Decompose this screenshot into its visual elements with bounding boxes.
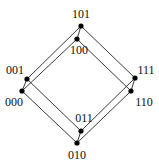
node-label-110: 110 <box>135 95 153 109</box>
node-000 <box>19 88 24 93</box>
node-010 <box>74 140 79 145</box>
node-011 <box>78 128 83 133</box>
edge-001-011 <box>27 79 81 131</box>
node-label-001: 001 <box>6 63 24 77</box>
node-label-011: 011 <box>75 111 93 125</box>
node-label-111: 111 <box>137 63 154 77</box>
node-101 <box>78 23 83 28</box>
node-label-010: 010 <box>68 148 86 162</box>
node-110 <box>128 88 133 93</box>
node-label-100: 100 <box>70 43 88 57</box>
edge-101-111 <box>81 26 135 78</box>
node-label-101: 101 <box>72 7 90 21</box>
node-100 <box>74 36 79 41</box>
nodes <box>19 23 137 145</box>
node-label-000: 000 <box>5 95 23 109</box>
node-001 <box>24 76 29 81</box>
edge-100-000 <box>22 39 77 91</box>
hypercube-diagram: 101100001000111110011010 <box>0 0 159 167</box>
edge-000-010 <box>22 91 77 143</box>
